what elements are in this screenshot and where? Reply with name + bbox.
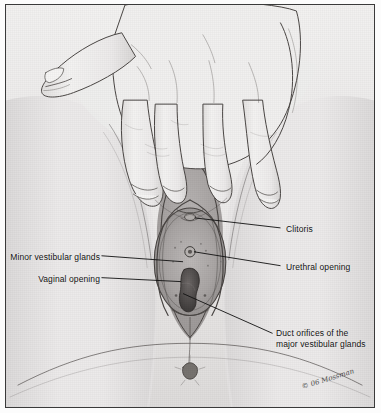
figure-root: Clitoris Urethral opening Minor vestibul… xyxy=(0,0,381,413)
label-urethral-opening: Urethral opening xyxy=(286,262,350,273)
label-vaginal-opening: Vaginal opening xyxy=(8,274,100,285)
label-minor-vestibular-glands: Minor vestibular glands xyxy=(8,252,100,263)
figure-frame: Clitoris Urethral opening Minor vestibul… xyxy=(5,4,375,408)
label-clitoris: Clitoris xyxy=(286,224,313,235)
label-duct-orifices-line2: major vestibular glands xyxy=(276,339,366,350)
label-duct-orifices-line1: Duct orifices of the xyxy=(276,328,348,339)
